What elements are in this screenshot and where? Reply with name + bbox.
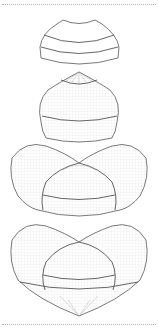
diagram-canvas xyxy=(0,0,158,330)
stage-2-shape xyxy=(40,72,119,142)
stage-4-shape xyxy=(11,225,147,316)
stage-3-shape xyxy=(11,145,147,217)
stage-1-shape xyxy=(40,20,119,64)
